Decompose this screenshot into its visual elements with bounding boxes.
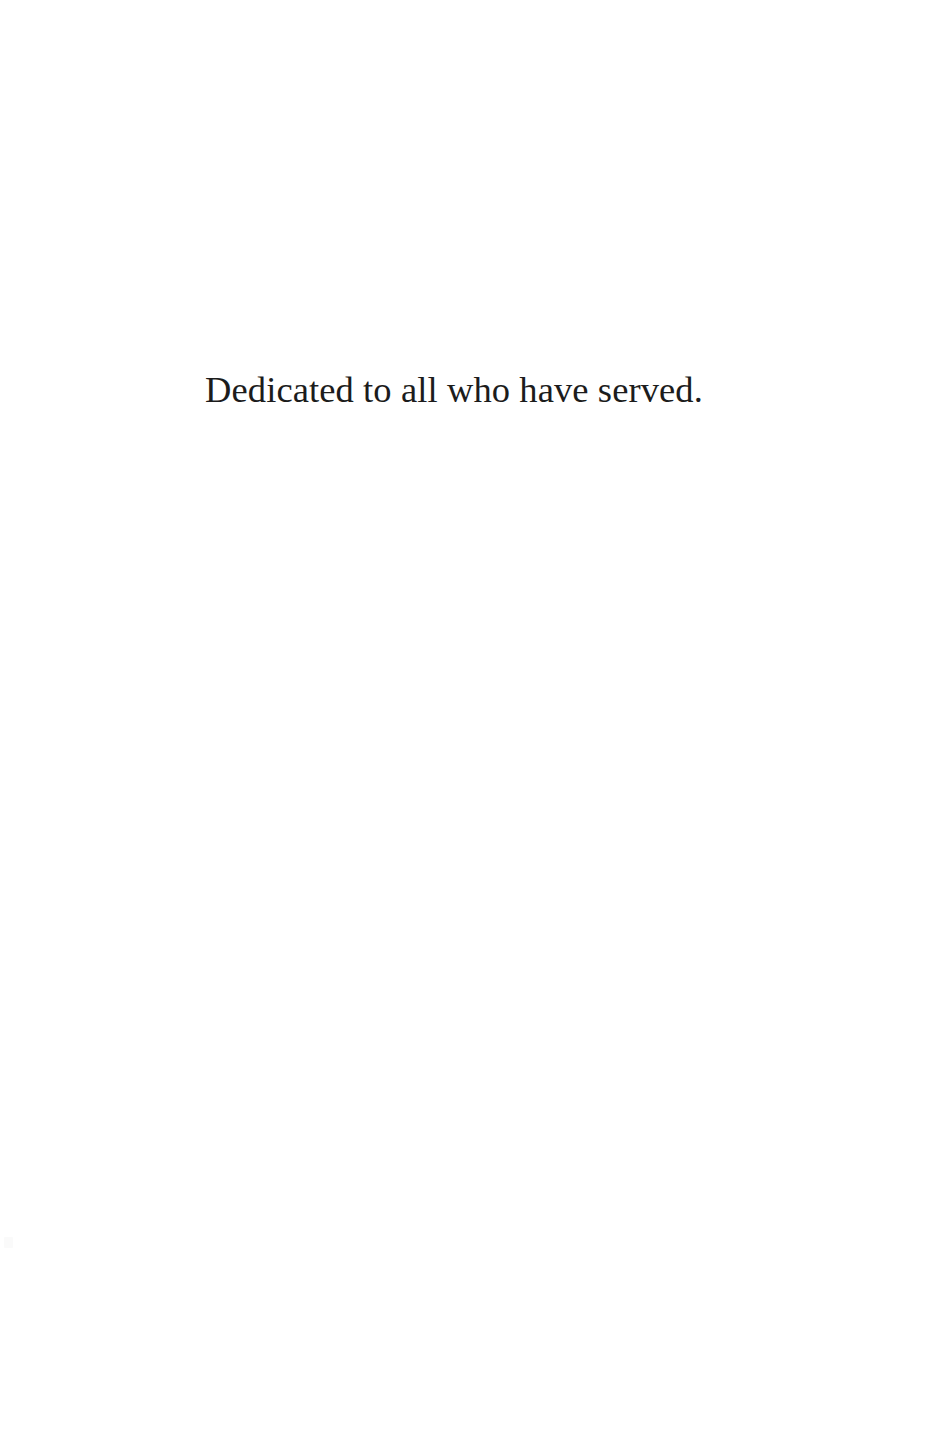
scan-artifact-speck (4, 1237, 13, 1248)
document-page: Dedicated to all who have served. (0, 0, 936, 1432)
dedication-block: Dedicated to all who have served. (0, 368, 908, 412)
dedication-text: Dedicated to all who have served. (205, 368, 703, 412)
